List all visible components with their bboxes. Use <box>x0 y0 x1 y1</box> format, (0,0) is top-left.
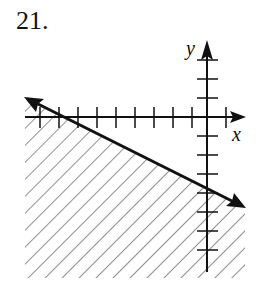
y-axis-label: y <box>184 37 195 60</box>
x-axis-label: x <box>231 123 241 145</box>
inequality-graph: y x <box>0 0 257 286</box>
